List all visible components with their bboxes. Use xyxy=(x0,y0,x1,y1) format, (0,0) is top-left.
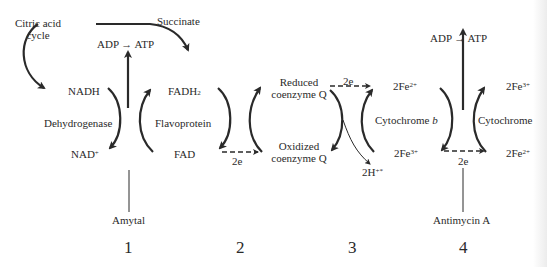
cytb-fe3-label: 2Fe3+ xyxy=(394,147,418,159)
fadh2-curve xyxy=(218,88,230,148)
cytc-fe2-label: 2Fe2+ xyxy=(506,147,530,159)
cytb-fe2-label: 2Fe2+ xyxy=(393,80,417,92)
succinate-label: Succinate xyxy=(157,15,200,27)
atp-label-site-1: ADP → ATP xyxy=(97,38,154,50)
electron-label-2: 2e xyxy=(343,75,353,87)
fadh2-label: FADH2 xyxy=(168,85,201,97)
cytc-fe3-label: 2Fe3+ xyxy=(506,80,530,92)
coq-up-curve xyxy=(250,88,262,152)
reduced-coq-label: Reduced coenzyme Q xyxy=(264,76,334,100)
cytb-up-curve xyxy=(362,90,374,152)
dehydrogenase-label: Dehydrogenase xyxy=(44,117,112,129)
site-number-3: 3 xyxy=(348,238,357,258)
electron-label-1: 2e xyxy=(232,155,242,167)
nad-plus-label: NAD+ xyxy=(71,148,99,160)
electron-transport-diagram: Citric acid cycle Succinate ADP → ATP AD… xyxy=(0,0,547,267)
flavoprotein-label: Flavoprotein xyxy=(155,117,211,129)
site-number-4: 4 xyxy=(459,238,468,258)
cytb-down-curve xyxy=(440,88,452,150)
cytochrome-b-label: Cytochrome b xyxy=(375,114,438,126)
cytochrome-label: Cytochrome xyxy=(478,114,532,126)
site-number-2: 2 xyxy=(236,238,245,258)
nadh-label: NADH xyxy=(68,85,100,97)
site-number-1: 1 xyxy=(124,238,133,258)
electron-label-3: 2e xyxy=(458,155,468,167)
citric-acid-cycle-label: Citric acid cycle xyxy=(8,17,68,41)
oxidized-coq-label: Oxidized coenzyme Q xyxy=(264,140,334,164)
atp-label-site-4: ADP → ATP xyxy=(430,32,487,44)
proton-label: 2H+* xyxy=(362,166,383,178)
fad-curve xyxy=(140,90,153,152)
amytal-label: Amytal xyxy=(112,214,145,226)
fad-label: FAD xyxy=(174,148,195,160)
antimycin-a-label: Antimycin A xyxy=(433,214,490,226)
page-edge-shadow xyxy=(533,0,547,267)
